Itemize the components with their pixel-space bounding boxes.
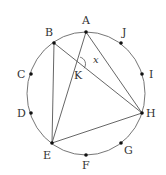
- point-j: [119, 41, 123, 45]
- segment-ae: [52, 32, 86, 143]
- point-b: [52, 41, 56, 45]
- point-i: [140, 72, 144, 76]
- point-label-j: J: [121, 26, 126, 39]
- segment-ah: [86, 32, 142, 113]
- point-label-c: C: [17, 68, 25, 81]
- point-f: [84, 153, 88, 157]
- point-label-g: G: [124, 144, 133, 157]
- point-h: [140, 111, 144, 115]
- point-label-d: D: [17, 107, 26, 120]
- point-label-e: E: [43, 149, 51, 162]
- point-a: [84, 30, 88, 34]
- point-label-a: A: [81, 14, 91, 27]
- point-c: [29, 72, 33, 76]
- point-label-b: B: [45, 26, 53, 39]
- point-g: [119, 141, 123, 145]
- angle-label-x: x: [93, 54, 99, 65]
- circle: [27, 32, 145, 155]
- point-d: [29, 111, 33, 115]
- point-label-i: I: [149, 68, 153, 81]
- point-labels: ABCDEFGHIJ: [17, 14, 156, 172]
- angle-x-arc: [80, 57, 85, 68]
- chord-segments: [52, 32, 142, 143]
- segment-eh: [52, 113, 142, 143]
- intersection-label-k: K: [74, 69, 83, 82]
- point-e: [50, 141, 54, 145]
- segment-be: [52, 43, 54, 143]
- circle-diagram: ABCDEFGHIJ K x: [0, 0, 166, 175]
- point-label-f: F: [82, 159, 90, 172]
- point-label-h: H: [146, 107, 156, 120]
